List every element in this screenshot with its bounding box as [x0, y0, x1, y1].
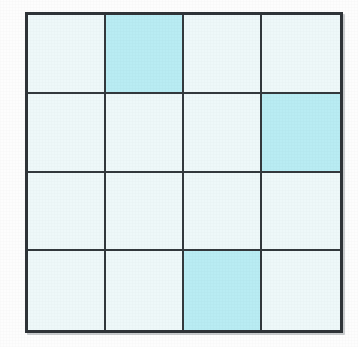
grid-cell-r4-c3[interactable]: [184, 251, 262, 330]
grid-cell-r1-c2[interactable]: [106, 15, 184, 94]
grid-cell-r2-c3[interactable]: [184, 94, 262, 173]
grid-cell-r1-c1[interactable]: [28, 15, 106, 94]
grid-cell-r2-c2[interactable]: [106, 94, 184, 173]
grid-frame: [25, 12, 343, 333]
grid-cell-r4-c2[interactable]: [106, 251, 184, 330]
grid-cell-r4-c4[interactable]: [262, 251, 340, 330]
grid-cell-r2-c4[interactable]: [262, 94, 340, 173]
grid-cell-r4-c1[interactable]: [28, 251, 106, 330]
grid-cell-r1-c3[interactable]: [184, 15, 262, 94]
grid-cell-r3-c2[interactable]: [106, 173, 184, 252]
grid-cell-r3-c1[interactable]: [28, 173, 106, 252]
grid-cell-r1-c4[interactable]: [262, 15, 340, 94]
grid-cell-r3-c4[interactable]: [262, 173, 340, 252]
grid-cell-r2-c1[interactable]: [28, 94, 106, 173]
grid-cell-r3-c3[interactable]: [184, 173, 262, 252]
grid: [28, 15, 340, 330]
